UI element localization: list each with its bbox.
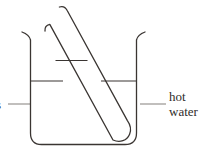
label-hot-water-line2: water bbox=[169, 104, 198, 119]
label-hot-water-line1: hot bbox=[169, 89, 198, 104]
label-hot-water: hot water bbox=[169, 89, 198, 119]
label-left-clipped: s bbox=[0, 97, 1, 112]
diagram-canvas bbox=[0, 0, 219, 158]
science-diagram-figure: hot water s bbox=[0, 0, 219, 158]
beaker-outline bbox=[22, 32, 145, 145]
test-tube-outline bbox=[45, 7, 131, 142]
